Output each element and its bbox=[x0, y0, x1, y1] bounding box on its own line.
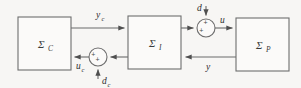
summing-junction-controller-input-sign-left: + bbox=[91, 51, 95, 58]
signal-label-d-c: d c bbox=[102, 76, 111, 88]
signal-label-y-c-symbol: y bbox=[95, 10, 101, 20]
summing-junction-plant-input[interactable]: + + bbox=[197, 19, 215, 37]
summing-junction-plant-input-sign-top: + bbox=[204, 19, 208, 26]
summing-junction-controller-input[interactable]: + + bbox=[89, 48, 107, 66]
summing-junction-plant-input-sign-left: + bbox=[199, 27, 203, 34]
signal-label-u-c-subscript: c bbox=[82, 66, 85, 73]
block-diagram-svg: Σ C Σ I Σ P + + + + y c bbox=[0, 0, 301, 88]
signal-label-u-c-symbol: u bbox=[76, 61, 81, 71]
block-interconnection-symbol: Σ bbox=[148, 37, 156, 49]
block-interconnection-subscript: I bbox=[158, 43, 162, 52]
signal-label-u: u bbox=[220, 15, 225, 25]
block-plant[interactable]: Σ P bbox=[236, 18, 289, 71]
block-interconnection[interactable]: Σ I bbox=[128, 16, 181, 69]
summing-junction-controller-input-sign-bottom: + bbox=[96, 56, 100, 63]
block-plant-subscript: P bbox=[265, 45, 271, 54]
block-plant-symbol: Σ bbox=[255, 39, 263, 51]
signal-label-u-c: u c bbox=[76, 61, 85, 73]
signal-label-y-symbol: y bbox=[205, 62, 211, 72]
signal-label-d-c-subscript: c bbox=[108, 81, 111, 88]
signal-label-u-symbol: u bbox=[220, 15, 225, 25]
block-controller-symbol: Σ bbox=[37, 38, 45, 50]
signal-label-d-symbol: d bbox=[197, 3, 202, 13]
signal-label-d-c-symbol: d bbox=[102, 76, 107, 86]
signal-label-y-c: y c bbox=[95, 10, 105, 22]
signal-label-y: y bbox=[205, 62, 211, 72]
signal-label-y-c-subscript: c bbox=[102, 15, 105, 22]
signal-label-d: d bbox=[197, 3, 202, 13]
block-controller[interactable]: Σ C bbox=[18, 17, 71, 70]
block-diagram-canvas: Σ C Σ I Σ P + + + + y c bbox=[0, 0, 301, 88]
